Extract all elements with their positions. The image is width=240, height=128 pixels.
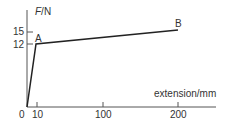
point-b-label: B — [175, 19, 182, 29]
x-tick-label-0: 0 — [19, 110, 25, 120]
point-a-label: A — [35, 34, 42, 44]
x-tick-label-100: 100 — [95, 110, 112, 120]
x-axis-label: extension/mm — [154, 89, 216, 99]
x-tick-label-10: 10 — [32, 110, 43, 120]
y-tick-label-15: 15 — [13, 27, 24, 37]
y-tick-label-12: 12 — [13, 40, 24, 50]
x-tick-label-200: 200 — [170, 110, 187, 120]
y-axis-label: F/N — [35, 7, 51, 17]
